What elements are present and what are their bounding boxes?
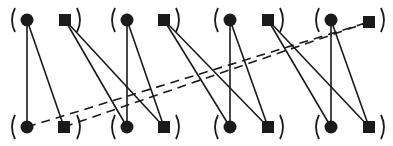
left-paren	[215, 8, 218, 32]
left-paren	[12, 115, 15, 139]
solid-edge	[65, 20, 164, 127]
circle-node-icon	[21, 121, 34, 134]
square-node-icon	[363, 16, 375, 28]
right-paren	[176, 8, 179, 32]
right-paren	[381, 115, 384, 139]
square-node-icon	[363, 121, 375, 133]
square-node-icon	[262, 14, 274, 26]
circle-node-icon	[325, 121, 338, 134]
solid-edge	[27, 20, 64, 127]
parentheses-layer	[12, 8, 384, 139]
right-paren	[280, 115, 283, 139]
circle-node-icon	[224, 121, 237, 134]
circle-node-icon	[21, 14, 34, 27]
square-node-icon	[58, 121, 70, 133]
solid-edge	[230, 20, 268, 127]
circle-node-icon	[121, 121, 134, 134]
solid-edge	[65, 20, 127, 127]
circle-node-icon	[325, 14, 338, 27]
solid-edge	[164, 20, 268, 127]
solid-edge	[331, 20, 369, 127]
left-paren	[316, 8, 319, 32]
left-paren	[316, 115, 319, 139]
right-paren	[176, 115, 179, 139]
circle-node-icon	[121, 14, 134, 27]
left-paren	[215, 115, 218, 139]
bipartite-pairing-diagram	[0, 0, 393, 146]
solid-edge	[268, 20, 369, 127]
left-paren	[112, 8, 115, 32]
square-node-icon	[158, 121, 170, 133]
solid-edge	[127, 20, 164, 127]
edges-layer	[27, 20, 369, 127]
diagram-canvas	[0, 0, 393, 146]
square-node-icon	[59, 14, 71, 26]
right-paren	[381, 8, 384, 32]
circle-node-icon	[224, 14, 237, 27]
right-paren	[280, 8, 283, 32]
right-paren	[77, 115, 80, 139]
left-paren	[112, 115, 115, 139]
left-paren	[12, 8, 15, 32]
square-node-icon	[262, 121, 274, 133]
right-paren	[77, 8, 80, 32]
square-node-icon	[158, 14, 170, 26]
